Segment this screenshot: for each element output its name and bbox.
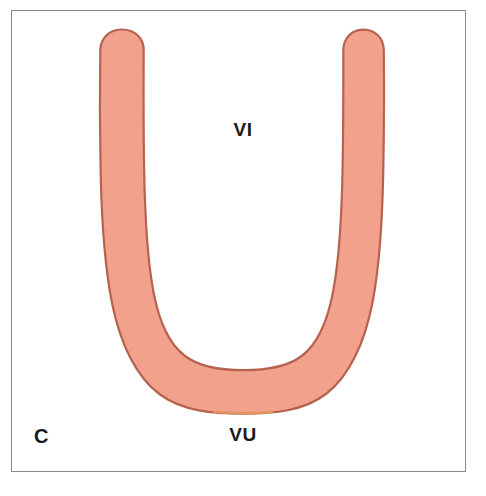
figure-panel: VI VU C xyxy=(0,0,486,496)
label-vi: VI xyxy=(0,119,486,141)
u-structure-path xyxy=(100,30,384,414)
label-vu: VU xyxy=(0,424,486,446)
u-shaped-structure-graphic xyxy=(0,0,486,496)
panel-letter-label: C xyxy=(34,425,49,448)
u-structure-base-highlight xyxy=(214,412,272,413)
